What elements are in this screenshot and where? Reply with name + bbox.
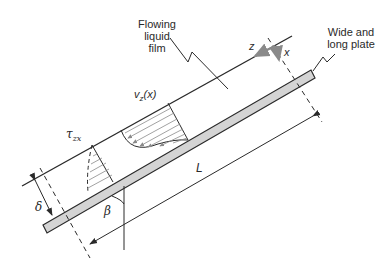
plate-label-line2: long plate: [318, 38, 384, 50]
film-label-line3: film: [136, 42, 178, 54]
velocity-argument: (x): [144, 88, 157, 100]
shear-stress-profile: [88, 145, 114, 192]
film-label: Flowing liquid film: [136, 18, 178, 54]
shear-subscript: zx: [73, 134, 82, 143]
beta-angle-arc: [112, 196, 124, 204]
x-axis-arrow: [276, 46, 279, 60]
z-axis-arrow: [255, 46, 275, 56]
film-label-line2: liquid: [136, 30, 178, 42]
shear-stress-label: τzx: [66, 128, 81, 145]
velocity-label: vz(x): [134, 88, 156, 105]
plate-label: Wide and long plate: [318, 26, 384, 50]
plate-label-line1: Wide and: [318, 26, 384, 38]
film-leader: [170, 38, 228, 89]
z-axis-label: z: [249, 40, 255, 52]
plate-leader: [313, 54, 335, 71]
angle-label: β: [104, 205, 111, 217]
thickness-label: δ: [35, 201, 42, 213]
film-label-line1: Flowing: [136, 18, 178, 30]
shear-symbol: τ: [66, 127, 73, 141]
x-axis-label: x: [284, 46, 290, 58]
length-label: L: [196, 162, 203, 174]
